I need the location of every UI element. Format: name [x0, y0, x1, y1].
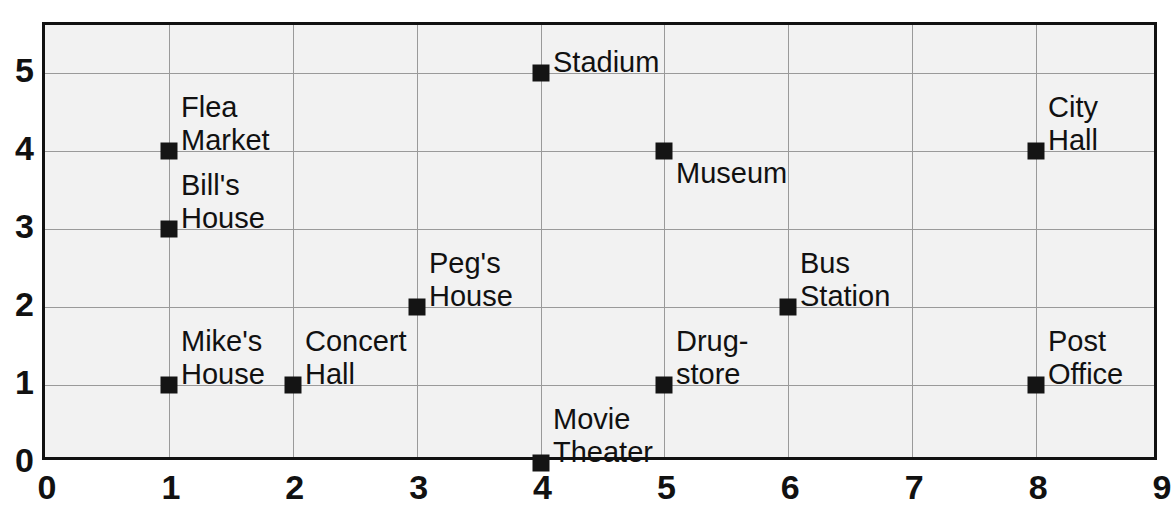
data-point-marker: [160, 142, 177, 159]
x-tick-label-1: 1: [161, 468, 180, 507]
gridline-vertical-7: [912, 25, 913, 457]
y-tick-label-4: 4: [2, 128, 34, 167]
data-point-marker: [532, 64, 549, 81]
data-point-label-line: House: [181, 202, 265, 235]
data-point-label-line: Market: [181, 124, 270, 157]
data-point-label-line: Stadium: [553, 46, 659, 79]
data-point-label-line: Theater: [553, 436, 653, 469]
data-point-marker: [284, 376, 301, 393]
y-tick-label-3: 3: [2, 206, 34, 245]
data-point-marker: [408, 298, 425, 315]
data-point-label: Mike'sHouse: [181, 325, 265, 391]
data-point-label-line: House: [181, 358, 265, 391]
data-point-label-line: Museum: [676, 157, 787, 190]
data-point-marker: [656, 376, 673, 393]
x-tick-label-4: 4: [533, 468, 552, 507]
data-point-marker: [656, 142, 673, 159]
data-point-label-line: Hall: [1048, 124, 1098, 157]
data-point-label-line: Concert: [305, 325, 407, 358]
gridline-vertical-4: [541, 25, 542, 457]
x-tick-label-6: 6: [781, 468, 800, 507]
data-point-label: Drug-store: [676, 325, 749, 391]
data-point-label-line: Post: [1048, 325, 1123, 358]
data-point-label: Museum: [676, 157, 787, 190]
data-point-label: CityHall: [1048, 91, 1098, 157]
y-tick-label-1: 1: [2, 362, 34, 401]
data-point-label-line: Hall: [305, 358, 407, 391]
x-tick-label-5: 5: [657, 468, 676, 507]
x-tick-label-9: 9: [1153, 468, 1171, 507]
x-tick-label-0: 0: [38, 468, 57, 507]
data-point-label: Stadium: [553, 46, 659, 79]
y-tick-label-5: 5: [2, 50, 34, 89]
data-point-label-line: store: [676, 358, 749, 391]
data-point-label-line: Drug-: [676, 325, 749, 358]
data-point-marker: [160, 376, 177, 393]
y-tick-label-0: 0: [2, 441, 34, 480]
data-point-label: PostOffice: [1048, 325, 1123, 391]
data-point-label: Bill'sHouse: [181, 169, 265, 235]
data-point-label: ConcertHall: [305, 325, 407, 391]
gridline-vertical-6: [788, 25, 789, 457]
data-point-label: FleaMarket: [181, 91, 270, 157]
data-point-label-line: Movie: [553, 403, 653, 436]
data-point-label-line: House: [429, 280, 513, 313]
x-tick-label-3: 3: [409, 468, 428, 507]
x-tick-label-7: 7: [905, 468, 924, 507]
data-point-label: MovieTheater: [553, 403, 653, 469]
data-point-marker: [1028, 376, 1045, 393]
gridline-vertical-3: [417, 25, 418, 457]
data-point-label-line: Bus: [800, 247, 890, 280]
data-point-marker: [1028, 142, 1045, 159]
data-point-label-line: Station: [800, 280, 890, 313]
data-point-label: BusStation: [800, 247, 890, 313]
y-tick-label-2: 2: [2, 284, 34, 323]
gridlines: [45, 25, 1154, 457]
x-tick-label-8: 8: [1029, 468, 1048, 507]
data-point-label-line: Office: [1048, 358, 1123, 391]
plot-area: FleaMarketBill'sHouseMike'sHouseConcertH…: [42, 22, 1157, 460]
data-point-label-line: Peg's: [429, 247, 513, 280]
data-point-marker: [160, 220, 177, 237]
data-point-label-line: Flea: [181, 91, 270, 124]
data-point-marker: [780, 298, 797, 315]
x-tick-label-2: 2: [285, 468, 304, 507]
data-point-label-line: Bill's: [181, 169, 265, 202]
data-point-label: Peg'sHouse: [429, 247, 513, 313]
gridline-horizontal-2: [45, 307, 1154, 308]
data-point-label-line: City: [1048, 91, 1098, 124]
data-point-label-line: Mike's: [181, 325, 265, 358]
